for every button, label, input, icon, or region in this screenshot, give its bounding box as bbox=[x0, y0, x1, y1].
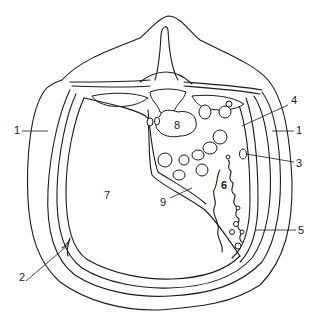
small-cell bbox=[226, 101, 232, 107]
label-7: 7 bbox=[104, 190, 110, 201]
diagram-canvas: 1 1 2 3 4 5 6 7 8 9 bbox=[0, 0, 322, 329]
alveolus bbox=[158, 153, 172, 167]
label-3: 3 bbox=[296, 158, 302, 169]
upper-cavity-left bbox=[92, 93, 148, 106]
body-cavity-wall bbox=[66, 98, 240, 279]
label-6: 6 bbox=[221, 180, 227, 191]
small-cell bbox=[234, 222, 239, 227]
alveolus bbox=[179, 155, 189, 165]
label-4: 4 bbox=[291, 95, 297, 106]
transverse-process-right-2 bbox=[184, 86, 260, 94]
small-cell bbox=[226, 155, 230, 159]
label-2: 2 bbox=[19, 272, 25, 283]
label-1-left: 1 bbox=[14, 125, 20, 136]
alveolus bbox=[203, 142, 217, 154]
small-cell bbox=[147, 118, 153, 126]
small-cell bbox=[240, 230, 244, 234]
cross-section-drawing bbox=[0, 0, 322, 329]
transverse-process-left-2 bbox=[72, 86, 150, 87]
lateral-nodule bbox=[240, 149, 247, 159]
label-9: 9 bbox=[160, 197, 166, 208]
alveolus bbox=[192, 150, 204, 160]
small-cell bbox=[230, 230, 235, 235]
cell bbox=[199, 105, 211, 119]
small-cell bbox=[236, 206, 240, 210]
leader-2 bbox=[26, 245, 68, 281]
cell bbox=[219, 106, 231, 118]
alveolus bbox=[196, 164, 208, 176]
label-5: 5 bbox=[298, 225, 304, 236]
leader-9 bbox=[170, 188, 192, 198]
label-8: 8 bbox=[174, 120, 180, 131]
small-cell bbox=[235, 243, 241, 249]
label-1-right: 1 bbox=[296, 125, 302, 136]
small-cell bbox=[155, 117, 160, 125]
transverse-process-left bbox=[70, 80, 150, 82]
alveolus bbox=[173, 170, 185, 180]
alveolus bbox=[213, 130, 227, 144]
